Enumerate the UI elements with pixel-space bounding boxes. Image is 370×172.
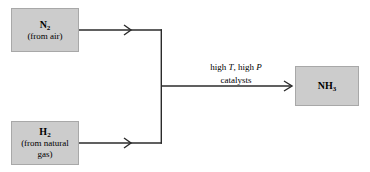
reactant-formula-n2-element: N — [40, 19, 47, 30]
product-formula-nh3: NH3 — [318, 80, 337, 92]
reactant-box-n2: N2 (from air) — [11, 8, 79, 52]
reaction-conditions-label: high T, high P catalysts — [178, 61, 294, 87]
conditions-pressure-symbol: P — [256, 62, 262, 72]
reactant-box-h2: H2 (from natural gas) — [11, 121, 79, 165]
conditions-high-t-prefix: high — [210, 62, 228, 72]
reactant-formula-n2: N2 — [40, 19, 51, 31]
reaction-conditions-line2: catalysts — [178, 74, 294, 87]
reactant-formula-h2: H2 — [39, 126, 50, 138]
reactant-source-h2-line2: gas) — [38, 149, 53, 160]
reactant-formula-h2-element: H — [39, 126, 47, 137]
conditions-high-p-prefix: , high — [234, 62, 257, 72]
reaction-conditions-line1: high T, high P — [178, 61, 294, 74]
product-box-nh3: NH3 — [295, 66, 359, 106]
process-flow-diagram: N2 (from air) H2 (from natural gas) high… — [0, 0, 370, 172]
reactant-formula-h2-subscript: 2 — [47, 131, 51, 139]
reactant-formula-n2-subscript: 2 — [47, 24, 51, 32]
reactant-source-h2-line1: (from natural — [21, 138, 69, 149]
product-formula-nh3-subscript: 3 — [333, 85, 337, 93]
product-formula-nh3-element: NH — [318, 80, 333, 91]
reactant-source-n2: (from air) — [27, 31, 62, 42]
